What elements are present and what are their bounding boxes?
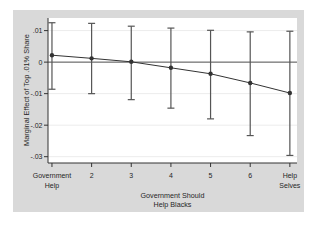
y-tick-label: 0 (39, 59, 43, 66)
x-tick-label: Help (283, 172, 298, 180)
x-tick-label: Government (33, 172, 72, 179)
y-axis-title: Marginal Effect of Top .01% Share (22, 34, 31, 146)
page: .010-.01-.02-.03GovernmentHelp23456HelpS… (0, 0, 319, 225)
plot-area (48, 18, 297, 163)
point-marker (169, 66, 173, 70)
y-tick-label: -.03 (30, 153, 42, 160)
point-marker (89, 56, 93, 60)
point-marker (288, 91, 292, 95)
x-tick-label: Help (45, 182, 60, 190)
x-tick-label: 4 (169, 172, 173, 179)
y-tick-label: -.01 (30, 90, 42, 97)
x-tick-label: Selves (279, 182, 301, 189)
chart-figure: .010-.01-.02-.03GovernmentHelp23456HelpS… (13, 10, 304, 212)
point-marker (129, 60, 133, 64)
y-tick-label: -.02 (30, 122, 42, 129)
x-tick-label: 2 (90, 172, 94, 179)
x-tick-label: 3 (129, 172, 133, 179)
x-tick-label: 6 (248, 172, 252, 179)
point-marker (208, 72, 212, 76)
y-tick-label: .01 (33, 27, 43, 34)
x-tick-label: 5 (209, 172, 213, 179)
chart-canvas: .010-.01-.02-.03GovernmentHelp23456HelpS… (13, 10, 304, 212)
x-axis-title-line2: Help Blacks (154, 200, 192, 209)
point-marker (50, 53, 54, 57)
point-marker (248, 81, 252, 85)
